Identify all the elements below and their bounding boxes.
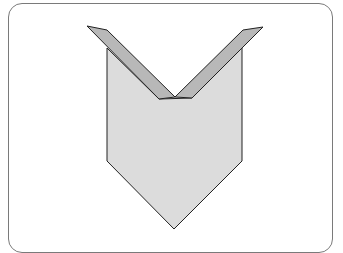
body xyxy=(107,48,242,229)
